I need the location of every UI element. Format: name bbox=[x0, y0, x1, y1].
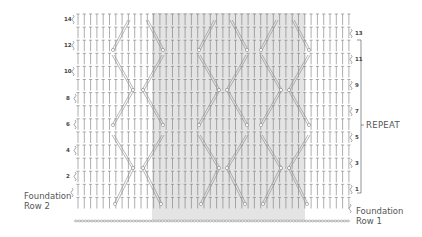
row-label-3: 3 bbox=[355, 160, 359, 166]
repeat-label: REPEAT bbox=[366, 120, 400, 130]
row-label-2: 2 bbox=[66, 173, 70, 179]
row-label-8: 8 bbox=[66, 95, 70, 101]
row-label-14: 14 bbox=[64, 16, 72, 22]
shaded-repeat-region bbox=[152, 13, 305, 220]
foundation-row-2-line2: Row 2 bbox=[24, 201, 71, 211]
foundation-row-2-line1: Foundation bbox=[24, 191, 71, 201]
foundation-row-1-line1: Foundation bbox=[356, 206, 403, 216]
row-label-10: 10 bbox=[64, 68, 72, 74]
row-label-6: 6 bbox=[66, 121, 70, 127]
row-label-11: 11 bbox=[355, 56, 363, 62]
row-label-1: 1 bbox=[355, 186, 359, 192]
row-label-5: 5 bbox=[355, 134, 359, 140]
row-label-9: 9 bbox=[355, 82, 359, 88]
repeat-bracket bbox=[357, 40, 364, 193]
row-label-12: 12 bbox=[64, 42, 72, 48]
foundation-row-1-label: Foundation Row 1 bbox=[356, 206, 403, 226]
foundation-row-2-label: Foundation Row 2 bbox=[24, 191, 71, 211]
foundation-chain bbox=[74, 220, 349, 222]
row-label-7: 7 bbox=[355, 108, 359, 114]
row-label-4: 4 bbox=[66, 147, 70, 153]
row-label-13: 13 bbox=[355, 30, 363, 36]
foundation-row-1-line2: Row 1 bbox=[356, 216, 403, 226]
